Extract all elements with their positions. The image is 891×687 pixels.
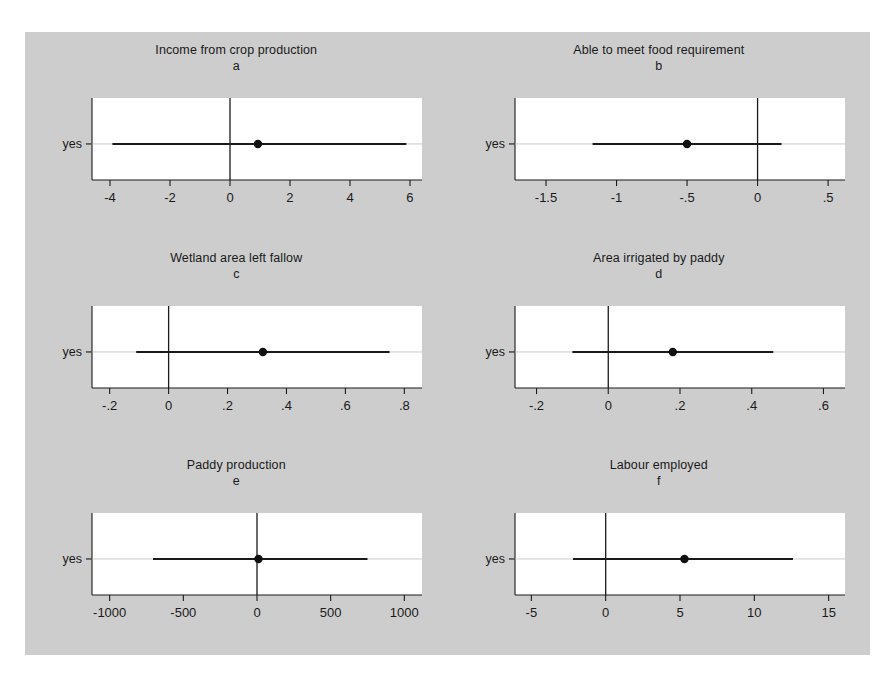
panel-e-category-label: yes bbox=[63, 552, 82, 566]
panel-a-plot-area bbox=[92, 98, 422, 180]
panel-d-xticklabel-4: .6 bbox=[818, 398, 829, 413]
panel-b-xticklabel-3: 0 bbox=[753, 190, 760, 205]
panel-f: yes-5051015Labour employedf bbox=[448, 447, 871, 655]
panel-b-plot: yes-1.5-1-.50.5 bbox=[448, 32, 871, 240]
panel-d-plot: yes-.20.2.4.6 bbox=[448, 240, 871, 448]
panel-a-plot: yes-4-20246 bbox=[25, 32, 448, 240]
panel-a-xticklabel-1: -2 bbox=[164, 190, 176, 205]
panel-e: yes-1000-50005001000Paddy productione bbox=[25, 447, 448, 655]
panel-f-plot: yes-5051015 bbox=[448, 447, 871, 655]
panel-e-xticklabel-1: -500 bbox=[170, 605, 196, 620]
figure-canvas: yes-4-20246Income from crop productionay… bbox=[25, 32, 870, 655]
panel-c-plot-area bbox=[92, 306, 422, 388]
panel-d: yes-.20.2.4.6Area irrigated by paddyd bbox=[448, 240, 871, 448]
panel-grid: yes-4-20246Income from crop productionay… bbox=[25, 32, 870, 655]
panel-b: yes-1.5-1-.50.5Able to meet food require… bbox=[448, 32, 871, 240]
panel-f-plot-area bbox=[515, 513, 845, 595]
panel-b-xticklabel-0: -1.5 bbox=[534, 190, 556, 205]
panel-a-xticklabel-3: 2 bbox=[286, 190, 293, 205]
panel-a-xticklabel-5: 6 bbox=[406, 190, 413, 205]
panel-f-category-label: yes bbox=[485, 552, 504, 566]
panel-b-category-label: yes bbox=[485, 137, 504, 151]
panel-b-xticklabel-4: .5 bbox=[822, 190, 833, 205]
panel-c-xticklabel-0: -.2 bbox=[102, 398, 117, 413]
panel-c-plot: yes-.20.2.4.6.8 bbox=[25, 240, 448, 448]
panel-a: yes-4-20246Income from crop productiona bbox=[25, 32, 448, 240]
panel-c-xticklabel-5: .8 bbox=[399, 398, 410, 413]
panel-d-xticklabel-3: .4 bbox=[746, 398, 757, 413]
panel-f-estimate-marker bbox=[680, 555, 688, 563]
panel-a-estimate-marker bbox=[254, 140, 262, 148]
panel-e-xticklabel-3: 500 bbox=[320, 605, 342, 620]
panel-e-plot: yes-1000-50005001000 bbox=[25, 447, 448, 655]
panel-e-xticklabel-0: -1000 bbox=[93, 605, 126, 620]
panel-e-estimate-marker bbox=[254, 555, 262, 563]
panel-a-xticklabel-2: 0 bbox=[226, 190, 233, 205]
panel-d-category-label: yes bbox=[485, 345, 504, 359]
panel-d-plot-area bbox=[515, 306, 845, 388]
panel-c-xticklabel-4: .6 bbox=[340, 398, 351, 413]
panel-a-xticklabel-4: 4 bbox=[346, 190, 353, 205]
panel-d-xticklabel-0: -.2 bbox=[528, 398, 543, 413]
panel-c-xticklabel-2: .2 bbox=[222, 398, 233, 413]
panel-d-estimate-marker bbox=[668, 347, 676, 355]
panel-d-xticklabel-1: 0 bbox=[604, 398, 611, 413]
panel-c: yes-.20.2.4.6.8Wetland area left fallowc bbox=[25, 240, 448, 448]
panel-f-xticklabel-2: 5 bbox=[676, 605, 683, 620]
panel-e-xticklabel-4: 1000 bbox=[390, 605, 419, 620]
panel-c-xticklabel-1: 0 bbox=[165, 398, 172, 413]
panel-f-xticklabel-0: -5 bbox=[525, 605, 537, 620]
panel-a-category-label: yes bbox=[63, 137, 82, 151]
panel-c-estimate-marker bbox=[259, 347, 267, 355]
panel-d-xticklabel-2: .2 bbox=[674, 398, 685, 413]
panel-b-xticklabel-2: -.5 bbox=[679, 190, 694, 205]
panel-f-xticklabel-4: 15 bbox=[821, 605, 835, 620]
panel-b-plot-area bbox=[515, 98, 845, 180]
panel-a-xticklabel-0: -4 bbox=[104, 190, 116, 205]
panel-f-xticklabel-1: 0 bbox=[602, 605, 609, 620]
panel-c-category-label: yes bbox=[63, 345, 82, 359]
panel-c-xticklabel-3: .4 bbox=[281, 398, 292, 413]
panel-b-estimate-marker bbox=[682, 140, 690, 148]
panel-b-xticklabel-1: -1 bbox=[610, 190, 622, 205]
panel-e-xticklabel-2: 0 bbox=[253, 605, 260, 620]
panel-f-xticklabel-3: 10 bbox=[747, 605, 761, 620]
